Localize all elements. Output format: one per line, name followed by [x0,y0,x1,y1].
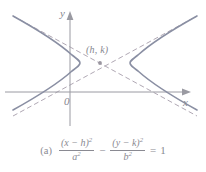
left-fraction: (x − h)2 a2 [59,138,94,162]
center-point-marker [98,61,102,65]
right-numerator-exponent: 2 [140,136,143,143]
center-point-label: (h, k) [86,45,108,55]
right-fraction: (y − k)2 b2 [110,138,145,162]
x-axis-arrowhead [182,89,191,96]
hyperbola-figure: y x 0 (h, k) (a) (x − h)2 a2 − (y − k)2 … [0,0,206,172]
right-fraction-numerator: (y − k)2 [110,138,145,150]
hyperbola-plot [0,0,206,128]
hyperbola-equation: (a) (x − h)2 a2 − (y − k)2 b2 = 1 [40,138,166,162]
left-fraction-denominator: a2 [70,151,82,163]
y-axis-label: y [60,8,65,19]
equation-part-label: (a) [40,145,52,156]
origin-label: 0 [64,96,70,107]
left-fraction-numerator: (x − h)2 [59,138,94,150]
x-axis-label: x [183,97,188,108]
y-axis-arrowhead [67,11,74,20]
right-fraction-denominator: b2 [122,151,134,163]
equation-result: 1 [160,144,166,156]
right-numerator-base: (y − k) [112,137,139,148]
minus-operator: − [99,144,105,156]
hyperbola-branches-group [13,16,197,110]
figure-caption: (a) (x − h)2 a2 − (y − k)2 b2 = 1 [0,128,206,172]
right-denominator-exponent: 2 [129,149,132,156]
left-denominator-exponent: 2 [77,149,80,156]
asymptotes-group [13,16,197,116]
left-numerator-base: (x − h) [61,137,89,148]
equals-sign: = [150,144,156,156]
left-numerator-exponent: 2 [89,136,92,143]
